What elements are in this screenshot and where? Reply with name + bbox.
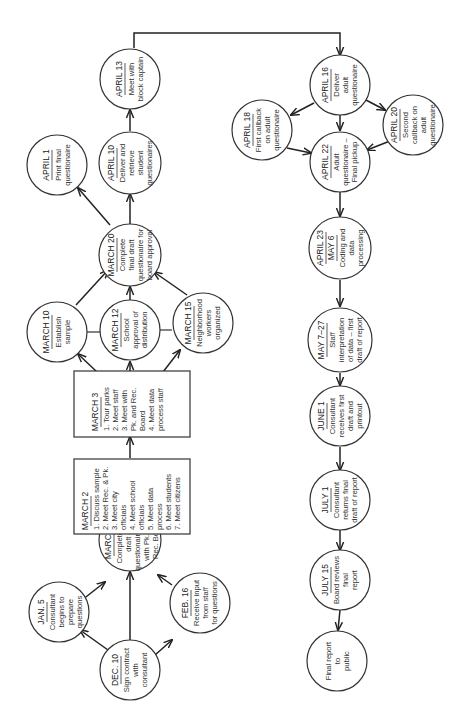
node-date: DEC. 10	[110, 654, 120, 686]
edge-march10-march20	[76, 270, 108, 305]
node-text: draft and	[346, 401, 355, 431]
node-dec10: DEC. 10 Sign contract with consultant	[100, 640, 160, 700]
node-text: prepare	[66, 599, 75, 625]
node-date: MARCH 20	[106, 233, 116, 276]
node-text: Board reviews	[332, 556, 341, 604]
node-march12: MARCH 12 School approval of distribution	[100, 300, 160, 360]
node-date: APRIL 10	[106, 145, 116, 181]
node-text: draft of report	[350, 476, 359, 522]
node-march20: MARCH 20 Complete final draft questionai…	[99, 224, 161, 286]
node-may7-27: MAY 7–27 Staff interpretation of data – …	[308, 308, 372, 372]
edge-april20-april22	[367, 141, 390, 150]
edge-april16-april18	[291, 103, 314, 115]
edge-dec10-jan5	[80, 630, 108, 650]
node-date: FEB. 16	[180, 587, 190, 618]
node-text: sample	[63, 320, 72, 344]
node-text: Neighborhood	[195, 299, 204, 347]
node-text: adult	[341, 76, 350, 93]
node-text: data	[347, 240, 356, 256]
node-text: block captain	[136, 57, 145, 101]
node-text: Adult	[332, 152, 341, 170]
node-april23-may6: APRIL 23 MAY 6 Coding and data processin…	[309, 217, 371, 279]
node-text: Establish	[54, 317, 63, 348]
node-text: printout	[355, 402, 364, 428]
node-text: questionaires	[145, 140, 154, 185]
node-date: JULY 1	[320, 486, 330, 513]
node-text: 6. Meet students	[164, 474, 173, 530]
edge-march20-april1	[78, 188, 110, 225]
node-text: Complete	[118, 239, 127, 272]
node-text: officials	[119, 505, 128, 530]
node-text: 5. Meet data	[146, 487, 155, 530]
node-text: process	[155, 503, 164, 530]
node-july15: JULY 15 Board reviews final report	[310, 550, 370, 610]
node-date: APRIL 20	[389, 107, 399, 143]
node-date: MARCH 12	[110, 308, 120, 351]
node-text: 4. Meet school	[128, 480, 137, 530]
node-text: questionaire	[272, 109, 281, 150]
node-text: Deliver and	[118, 144, 127, 182]
node-march3: MARCH 3 1. Tour parks 2. Meet staff 3. M…	[74, 371, 190, 437]
node-text: workers	[204, 310, 213, 338]
node-text: report	[350, 569, 359, 590]
node-text: Consultant	[48, 593, 57, 630]
node-text: questionaire	[63, 144, 72, 185]
node-text: Board	[138, 411, 147, 431]
edge-march3-march10	[78, 354, 97, 372]
node-date: APRIL 23	[315, 230, 325, 266]
node-date: MAY 7–27	[316, 320, 326, 359]
node-text: 1. Tour parks	[102, 387, 111, 431]
node-date: JAN. 5	[36, 599, 46, 625]
edge-dec10-feb16	[155, 640, 172, 655]
edge-april18-april22	[287, 148, 311, 153]
node-feb16: FEB. 16 Receive input from staff for que…	[170, 573, 230, 633]
node-text: final	[341, 573, 350, 587]
node-text: student	[136, 150, 145, 176]
node-date: APRIL 18	[242, 112, 252, 148]
node-date: MARCH 10	[41, 310, 51, 353]
node-text: approval of	[131, 310, 140, 348]
node-date: JULY 15	[320, 564, 330, 596]
node-text: to	[333, 658, 342, 664]
node-text: public	[342, 651, 351, 671]
network-diagram: DEC. 10 Sign contract with consultant JA…	[0, 0, 449, 716]
node-text: callback on	[410, 106, 419, 144]
node-text: questionaire	[428, 104, 437, 145]
edge-april13-april16	[134, 33, 340, 55]
node-text: of data – first	[346, 317, 355, 362]
node-text: Print final	[54, 149, 63, 181]
node-text: 4. Meet data	[147, 388, 156, 431]
node-text: Consultant	[332, 481, 341, 518]
node-date: APRIL 13	[114, 61, 124, 97]
node-text: Deliver	[332, 73, 341, 97]
edge-feb16-march1	[158, 575, 172, 585]
edge-april16-april20	[364, 99, 385, 110]
node-text: officials	[137, 505, 146, 530]
node-text: adult	[419, 116, 428, 133]
node-text: board approval	[145, 229, 154, 280]
node-text: Second	[401, 112, 410, 138]
node-text: returns final	[341, 480, 350, 520]
node-text: final draft	[127, 238, 136, 270]
node-april18: APRIL 18 First callback on adult questio…	[232, 100, 292, 160]
node-april22: APRIL 22 Adult questionaire – Final pick…	[310, 132, 370, 192]
node-text: Receive input	[192, 579, 201, 626]
node-final-report: Final report to public	[307, 631, 367, 691]
edge-july15-final	[338, 610, 340, 630]
node-text: Consultant	[328, 397, 337, 434]
node-text: 3. Meet city	[110, 491, 119, 530]
node-april13: APRIL 13 Meet with block captain	[100, 49, 160, 109]
node-text: process staff	[156, 387, 165, 431]
node-date-end: MAY 6	[326, 235, 336, 260]
node-text: interpretation	[337, 318, 346, 362]
node-text: School	[122, 318, 131, 342]
node-date: JUNE 1	[316, 401, 326, 431]
node-date: APRIL 1	[41, 149, 51, 181]
node-march15: MARCH 15 Neighborhood workers organized	[173, 293, 233, 353]
node-text: Meet with	[127, 63, 136, 96]
node-date: MARCH 2	[80, 492, 90, 531]
node-text: retrieve	[127, 150, 136, 175]
node-june1: JUNE 1 Consultant receives first draft a…	[310, 386, 370, 446]
node-text: draft of report	[355, 316, 364, 362]
node-april16: APRIL 16 Deliver adult questionaire	[310, 55, 370, 115]
